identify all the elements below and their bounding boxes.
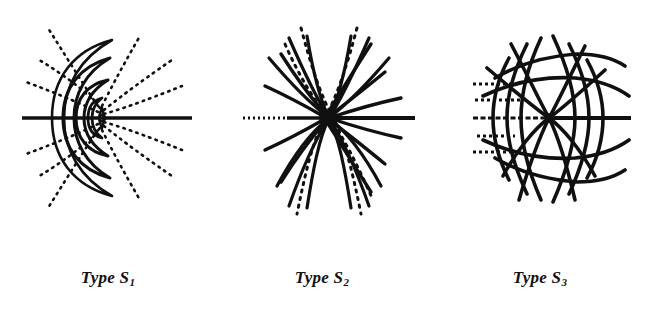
caption-prefix-s3: Type <box>513 268 552 287</box>
caption-symbol-s3: S <box>551 268 561 287</box>
figure-panel-type-s3 <box>443 14 643 229</box>
s3-h-3 <box>483 140 629 158</box>
figure-panel-type-s2 <box>229 14 429 229</box>
diagram-type-s2 <box>229 14 429 229</box>
dotted-ray-ul-2 <box>26 82 98 112</box>
figure-panel-type-s1 <box>14 14 214 229</box>
caption-type-s1: Type S1 <box>8 268 208 288</box>
caption-subscript-s3: 3 <box>562 276 568 288</box>
diagram-type-s1 <box>14 14 214 229</box>
diagram-type-s3 <box>443 14 643 229</box>
caption-symbol-s1: S <box>119 268 129 287</box>
caption-type-s2: Type S2 <box>222 268 422 288</box>
caption-prefix-s2: Type <box>295 268 334 287</box>
figure-page: Type S1 Type S2 Type S3 <box>0 0 645 329</box>
node-marker-s2 <box>319 111 337 125</box>
node-marker-s3 <box>545 113 555 123</box>
dotted-ray-ll-2 <box>26 124 98 154</box>
caption-subscript-s2: 2 <box>344 276 350 288</box>
caption-row: Type S1 Type S2 Type S3 <box>0 268 645 308</box>
s3-h-2 <box>483 78 629 96</box>
caption-symbol-s2: S <box>333 268 343 287</box>
caption-subscript-s1: 1 <box>130 276 136 288</box>
caption-prefix-s1: Type <box>81 268 120 287</box>
caption-type-s3: Type S3 <box>440 268 640 288</box>
